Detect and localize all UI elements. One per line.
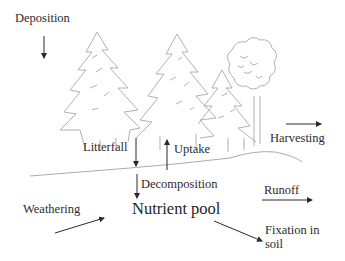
- fixation-label: Fixation in soil: [265, 223, 335, 252]
- deposition-label: Deposition: [15, 11, 70, 25]
- decomposition-label: Decomposition: [141, 177, 217, 191]
- deciduous-tree-icon: [227, 37, 276, 146]
- fixation-arrow-icon: [214, 221, 262, 241]
- weathering-label: Weathering: [23, 202, 80, 216]
- uptake-label: Uptake: [174, 142, 210, 156]
- nutrient-cycle-diagram: Deposition Litterfall Uptake Harvesting …: [0, 0, 345, 261]
- conifer-tree-icon: [60, 32, 140, 150]
- nutrient-pool-label: Nutrient pool: [132, 200, 220, 219]
- conifer-tree-icon: [136, 34, 216, 150]
- litterfall-label: Litterfall: [83, 140, 127, 154]
- weathering-arrow-icon: [55, 218, 104, 233]
- conifer-tree-icon: [198, 70, 256, 152]
- ground-line: [30, 152, 302, 176]
- runoff-label: Runoff: [264, 183, 299, 197]
- harvesting-label: Harvesting: [270, 131, 325, 145]
